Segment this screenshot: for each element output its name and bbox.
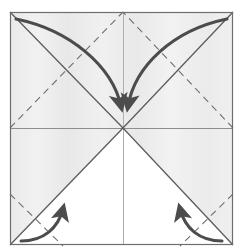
origami-diagram-container: Origami preliminary-base crease pattern …: [0, 0, 242, 251]
origami-diagram-svg: Origami preliminary-base crease pattern …: [0, 0, 242, 251]
